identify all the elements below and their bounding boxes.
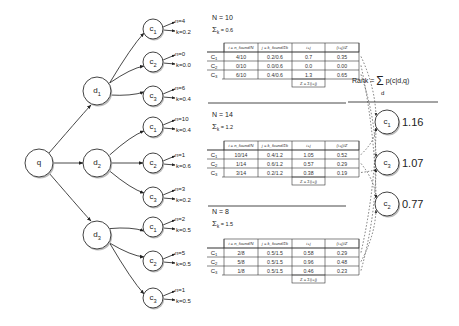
n-count-label: n=10 [175, 116, 189, 122]
table-row-class: C1 [211, 250, 218, 258]
table-cell-norm: 0.35 [337, 54, 347, 60]
table-cell-i: 3/14 [236, 170, 246, 176]
table-column-header: (i+j)/Z [337, 143, 348, 148]
table-footer-z: Z = Σ(i+j) [300, 81, 318, 86]
table-footer-z: Z = Σ(i+j) [300, 179, 318, 184]
rank-formula: Rank = Σ p(c|d,q) [352, 74, 409, 88]
table-cell-norm: 0.19 [337, 170, 347, 176]
category-node-d3-c3: c3 [143, 288, 164, 310]
edge-d2-c1 [110, 131, 144, 155]
score-flow-lines [361, 57, 376, 271]
k-score-label: k=0.6 [176, 163, 192, 169]
table-column-header: (i+j)/Z [337, 45, 348, 50]
edge-q-d3 [49, 173, 91, 221]
category-node-d3-c1: c1 [143, 217, 164, 239]
table-row-class: C1 [211, 54, 218, 62]
flow-d1-C3 [361, 75, 376, 158]
doc-count-N: N = 10 [212, 14, 233, 21]
doc-sigma-k: Σk = 0.6 [212, 25, 233, 35]
k-score-label: k=0.5 [176, 298, 192, 304]
score-table-d2: N = 14Σk = 1.2i = n_found/Nj = k_found/Σ… [207, 111, 359, 185]
category-node-d1-c1: c1 [143, 19, 164, 41]
table-cell-i: 5/8 [237, 259, 244, 265]
table-column-header: i+j [306, 143, 311, 148]
n-count-label: n=0 [175, 51, 186, 57]
table-column-header: i+j [306, 45, 311, 50]
table-cell-ij: 0.7 [305, 54, 312, 60]
table-row-class: C2 [211, 161, 218, 169]
category-node-d2-c2: c2 [143, 153, 164, 175]
diagram-canvas: n=4k=0.2c1n=0k=0.0c2n=6k=0.4c3d1n=10k=0.… [0, 0, 459, 326]
table-cell-j: 0.2/0.6 [267, 54, 283, 60]
table-cell-norm: 0.00 [337, 63, 347, 69]
table-cell-i: 2/8 [237, 250, 244, 256]
edge-d3-c2 [110, 243, 144, 257]
table-row-class: C2 [211, 259, 218, 267]
flow-d1-C1 [361, 57, 376, 117]
table-row-class: C2 [211, 63, 218, 71]
k-score-label: k=0.2 [176, 197, 192, 203]
table-cell-ij: 1.3 [305, 72, 312, 78]
edge-d3-c3 [110, 243, 144, 294]
table-cell-ij: 0.0 [305, 63, 312, 69]
table-cell-i: 1/8 [237, 268, 244, 274]
n-count-label: n=5 [175, 250, 186, 256]
table-row-class: C1 [211, 152, 218, 160]
table-cell-j: 0.2/1.2 [267, 170, 283, 176]
edge-q-d1 [49, 105, 91, 153]
rank-node-c3: c3 [375, 151, 400, 177]
edge-d1-c1 [110, 33, 144, 83]
table-cell-i: 6/10 [236, 72, 246, 78]
table-cell-j: 0.6/1.2 [267, 161, 283, 167]
k-score-label: k=0.0 [176, 62, 192, 68]
table-cell-norm: 0.29 [337, 250, 347, 256]
table-row-class: C3 [211, 268, 218, 276]
table-cell-j: 0.4/1.2 [267, 152, 283, 158]
n-count-label: n=6 [175, 85, 186, 91]
doc-sigma-k: Σk = 1.2 [212, 122, 233, 132]
flow-d3-C2 [361, 210, 376, 262]
edge-d2-c3 [110, 171, 144, 193]
document-node-d3: d3 [83, 221, 112, 251]
table-cell-norm: 0.65 [337, 72, 347, 78]
ranking-panel: Rank = Σ p(c|d,q)d1.161.070.77 [348, 74, 438, 210]
query-node-label: q [37, 158, 41, 167]
k-score-label: k=0.5 [176, 227, 192, 233]
n-count-label: n=2 [175, 216, 186, 222]
rank-score: 0.77 [402, 198, 423, 210]
rank-node-c1: c1 [375, 110, 400, 136]
table-cell-ij: 0.38 [303, 170, 313, 176]
score-table-d1: N = 10Σk = 0.6i = n_found/Nj = k_found/Σ… [207, 14, 359, 87]
score-table-d3: N = 8Σk = 1.5i = n_found/Nj = k_found/Σk… [207, 208, 359, 283]
table-cell-ij: 0.96 [303, 259, 313, 265]
k-score-label: k=0.4 [176, 96, 192, 102]
category-node-d2-c1: c1 [143, 117, 164, 139]
doc-count-N: N = 14 [212, 111, 233, 118]
table-cell-norm: 0.48 [337, 259, 347, 265]
table-cell-i: 10/14 [235, 152, 248, 158]
table-column-header: j = k_found/Σk [261, 45, 289, 50]
n-count-label: n=3 [175, 186, 186, 192]
table-cell-norm: 0.52 [337, 152, 347, 158]
score-tables: N = 10Σk = 0.6i = n_found/Nj = k_found/Σ… [207, 14, 359, 283]
flow-d1-C2 [361, 66, 376, 199]
table-cell-j: 0.5/1.5 [267, 250, 283, 256]
category-node-d1-c2: c2 [143, 52, 164, 74]
category-node-d1-c3: c3 [143, 86, 164, 108]
document-node-d1: d1 [83, 77, 112, 107]
query-node: q [25, 149, 54, 179]
table-cell-j: 0.4/0.6 [267, 72, 283, 78]
table-cell-i: 1/14 [236, 161, 246, 167]
n-count-label: n=1 [175, 152, 186, 158]
table-cell-j: 0.5/1.5 [267, 268, 283, 274]
edge-d1-c3 [110, 92, 144, 95]
flow-d2-C2 [361, 164, 376, 199]
n-count-label: n=4 [175, 18, 186, 24]
table-cell-ij: 0.58 [303, 250, 313, 256]
table-cell-norm: 0.23 [337, 268, 347, 274]
table-cell-i: 4/10 [236, 54, 246, 60]
doc-sigma-k: Σk = 1.5 [212, 219, 233, 229]
table-column-header: i = n_found/N [228, 45, 254, 50]
k-score-label: k=0.2 [176, 29, 192, 35]
rank-score: 1.07 [402, 157, 423, 169]
